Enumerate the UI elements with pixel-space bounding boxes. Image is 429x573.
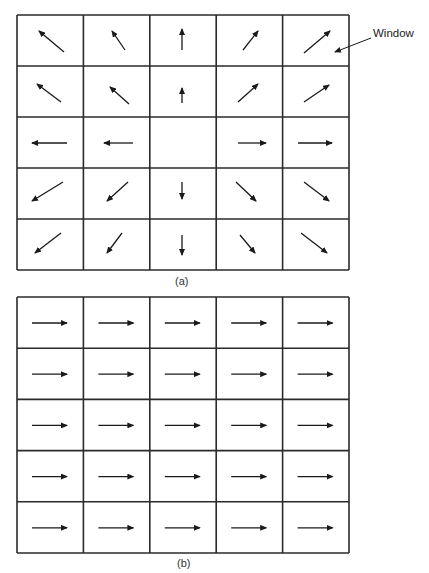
- panel-a-caption: (a): [175, 276, 188, 287]
- motion-vector-arrow-icon: [107, 233, 122, 253]
- motion-vector-arrow-icon: [243, 31, 258, 50]
- motion-vector-arrow-icon: [238, 84, 258, 102]
- motion-vector-arrow-icon: [240, 235, 255, 253]
- panel-b-caption: (b): [177, 558, 190, 569]
- motion-vector-arrow-icon: [304, 182, 329, 201]
- motion-vector-arrow-icon: [32, 182, 63, 201]
- panel-a-window-grid: [17, 15, 349, 270]
- panel-b-window-grid: [17, 297, 349, 553]
- motion-vector-arrow-icon: [35, 233, 61, 253]
- motion-vector-arrow-icon: [107, 182, 128, 201]
- motion-vector-diagram: [0, 0, 429, 573]
- motion-vector-arrow-icon: [112, 31, 125, 50]
- motion-vector-arrow-icon: [39, 31, 64, 52]
- window-leader-arrow-icon: [335, 38, 371, 52]
- motion-vector-figure: Window (a) (b): [0, 0, 429, 573]
- motion-vector-arrow-icon: [110, 87, 129, 104]
- window-annotation: [335, 38, 371, 52]
- motion-vector-arrow-icon: [304, 85, 329, 102]
- window-label: Window: [373, 28, 414, 40]
- motion-vector-arrow-icon: [37, 84, 61, 102]
- motion-vector-arrow-icon: [236, 182, 256, 201]
- motion-vector-arrow-icon: [301, 233, 327, 253]
- motion-vector-arrow-icon: [304, 31, 330, 53]
